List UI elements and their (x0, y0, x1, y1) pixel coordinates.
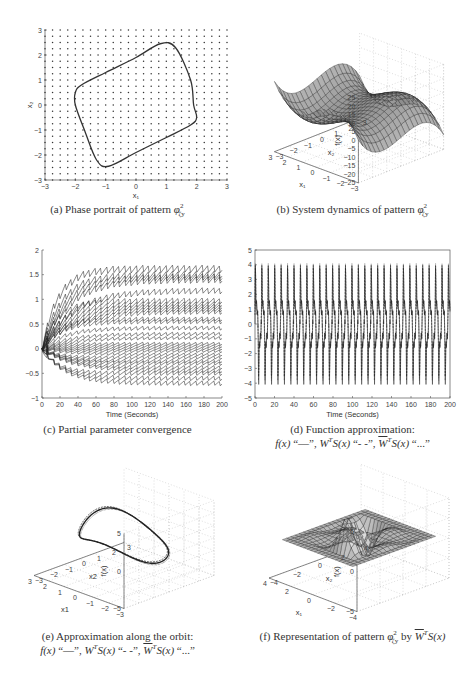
svg-text:−3: −3 (41, 183, 49, 190)
svg-text:1: 1 (296, 164, 300, 171)
svg-text:0: 0 (38, 102, 42, 109)
subfigure-f-pattern-representation: −4−2024−4−2024−505x₁x₂f(x) (f) Represent… (235, 450, 470, 679)
svg-text:120: 120 (366, 401, 378, 408)
svg-text:120: 120 (144, 401, 156, 408)
svg-text:x1: x1 (61, 605, 69, 614)
svg-text:1: 1 (35, 296, 39, 303)
svg-text:2: 2 (112, 549, 116, 556)
caption-f: (f) Representation of pattern φ2ζy by WT… (235, 629, 470, 643)
svg-text:−1: −1 (34, 127, 42, 134)
svg-text:−1: −1 (322, 175, 330, 182)
svg-text:25: 25 (348, 94, 356, 101)
svg-text:x₁: x₁ (133, 191, 140, 200)
svg-text:3: 3 (28, 578, 32, 585)
svg-text:−1: −1 (65, 566, 73, 573)
svg-text:−5: −5 (347, 145, 355, 152)
svg-text:3: 3 (363, 119, 367, 126)
svg-text:0: 0 (310, 169, 314, 176)
svg-text:−2: −2 (50, 571, 58, 578)
svg-text:0.5: 0.5 (29, 321, 39, 328)
svg-text:2: 2 (38, 52, 42, 59)
svg-text:4: 4 (263, 580, 267, 587)
svg-text:−0.5: −0.5 (25, 370, 39, 377)
caption-e: (e) Approximation along the orbit: f(x) … (0, 629, 235, 657)
svg-text:−2: −2 (71, 183, 79, 190)
svg-text:−3: −3 (34, 177, 42, 184)
svg-text:3: 3 (248, 276, 252, 283)
svg-text:0: 0 (318, 562, 322, 569)
parameter-convergence-plot: 020406080100120140160180200−1−0.500.511.… (0, 220, 235, 450)
svg-text:3: 3 (268, 154, 272, 161)
svg-text:60: 60 (310, 401, 318, 408)
svg-text:−2: −2 (290, 147, 298, 154)
caption-b: (b) System dynamics of pattern φ2ζy (235, 202, 470, 216)
svg-text:0: 0 (350, 568, 354, 575)
phase-portrait-plot: −3−2−10123−3−2−10123x₁x₂ (0, 0, 235, 220)
svg-text:10: 10 (348, 120, 356, 127)
svg-text:0: 0 (253, 401, 257, 408)
svg-text:−4: −4 (270, 579, 278, 586)
svg-text:−5: −5 (113, 605, 121, 612)
w-hat: Ŵ (84, 644, 93, 656)
svg-text:2: 2 (341, 554, 345, 561)
subfigure-c-parameter-convergence: 020406080100120140160180200−1−0.500.511.… (0, 220, 235, 450)
svg-text:15: 15 (348, 111, 356, 118)
svg-text:4: 4 (248, 261, 252, 268)
svg-text:0: 0 (82, 560, 86, 567)
svg-text:x₂: x₂ (25, 102, 34, 109)
svg-text:f(x): f(x) (332, 566, 341, 577)
svg-text:5: 5 (350, 528, 354, 535)
subfigure-b-system-dynamics: −3−2−10123−3−2−10123−25−20−15−10−5051015… (235, 0, 470, 220)
svg-text:4: 4 (364, 545, 368, 552)
svg-text:1.5: 1.5 (29, 271, 39, 278)
caption-c: (c) Partial parameter convergence (0, 422, 235, 436)
svg-text:100: 100 (347, 401, 359, 408)
svg-text:160: 160 (405, 401, 417, 408)
caption-e-legend: f(x) “—”, ŴTS(x) “- -”, WTS(x) “...” (0, 643, 235, 657)
svg-text:140: 140 (386, 401, 398, 408)
svg-text:3: 3 (225, 183, 229, 190)
svg-text:2: 2 (285, 588, 289, 595)
svg-text:40: 40 (74, 401, 82, 408)
svg-text:Time (Seconds): Time (Seconds) (326, 410, 379, 419)
svg-text:2: 2 (35, 247, 39, 254)
svg-text:80: 80 (329, 401, 337, 408)
svg-text:1: 1 (58, 589, 62, 596)
svg-text:80: 80 (110, 401, 118, 408)
svg-text:x₁: x₁ (299, 180, 306, 189)
caption-d: (d) Function approximation: f(x) “—”, Ŵ… (235, 422, 470, 450)
svg-text:180: 180 (198, 401, 210, 408)
svg-text:2: 2 (195, 183, 199, 190)
subfigure-a-phase-portrait: −3−2−10123−3−2−10123x₁x₂ (a) Phase portr… (0, 0, 235, 220)
subfigure-d-function-approximation: 020406080100120140160180200−5−4−3−2−1012… (235, 220, 470, 460)
svg-text:0: 0 (307, 597, 311, 604)
svg-text:−3: −3 (244, 365, 252, 372)
svg-text:100: 100 (126, 401, 138, 408)
svg-text:3: 3 (127, 544, 131, 551)
svg-text:−1: −1 (304, 142, 312, 149)
svg-text:−1: −1 (244, 335, 252, 342)
caption-a: (a) Phase portrait of pattern φ2ζy (0, 202, 235, 216)
svg-text:20: 20 (56, 401, 64, 408)
svg-text:−2: −2 (244, 350, 252, 357)
subfigure-e-orbit-approximation: −3−2−10123−3−2−10123−505x1x2f(x) (e) App… (0, 450, 235, 679)
svg-text:−10: −10 (344, 154, 356, 161)
svg-text:2: 2 (282, 159, 286, 166)
svg-text:2: 2 (43, 583, 47, 590)
svg-text:1: 1 (248, 306, 252, 313)
pattern-representation-surface-plot: −4−2024−4−2024−505x₁x₂f(x) (235, 450, 470, 679)
svg-text:0: 0 (134, 183, 138, 190)
svg-text:1: 1 (97, 555, 101, 562)
svg-text:20: 20 (348, 103, 356, 110)
svg-text:3: 3 (38, 27, 42, 34)
svg-text:200: 200 (216, 401, 228, 408)
svg-text:5: 5 (351, 128, 355, 135)
svg-text:−1: −1 (31, 395, 39, 402)
svg-text:−5: −5 (346, 608, 354, 615)
svg-text:−2: −2 (34, 152, 42, 159)
svg-text:40: 40 (290, 401, 298, 408)
svg-text:180: 180 (425, 401, 437, 408)
system-dynamics-surface-plot: −3−2−10123−3−2−10123−25−20−15−10−5051015… (235, 0, 470, 220)
svg-text:160: 160 (180, 401, 192, 408)
svg-text:5: 5 (248, 247, 252, 254)
